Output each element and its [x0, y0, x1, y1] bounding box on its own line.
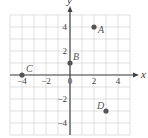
point-label-c: C [26, 63, 33, 74]
x-axis-label: x [140, 68, 146, 80]
x-axis-arrow-icon [133, 73, 139, 78]
point-a [91, 24, 96, 29]
y-tick-label: −4 [57, 118, 67, 128]
y-axis-arrow-icon [68, 6, 73, 12]
x-tick-label: 4 [116, 76, 121, 86]
point-c [19, 72, 24, 77]
x-tick-label: 0 [68, 76, 73, 86]
point-label-a: A [97, 24, 105, 35]
x-tick-label: −2 [41, 76, 51, 86]
y-tick-label: 4 [63, 22, 68, 32]
point-label-b: B [73, 51, 79, 62]
y-axis-label: y [66, 0, 72, 6]
y-tick-label: −2 [57, 94, 67, 104]
point-label-d: D [96, 100, 105, 111]
y-tick-label: 2 [63, 46, 68, 56]
coordinate-plane: xy −4−202442−2−4 ABCD [0, 0, 148, 138]
x-tick-label: 2 [92, 76, 97, 86]
point-b [67, 60, 72, 65]
